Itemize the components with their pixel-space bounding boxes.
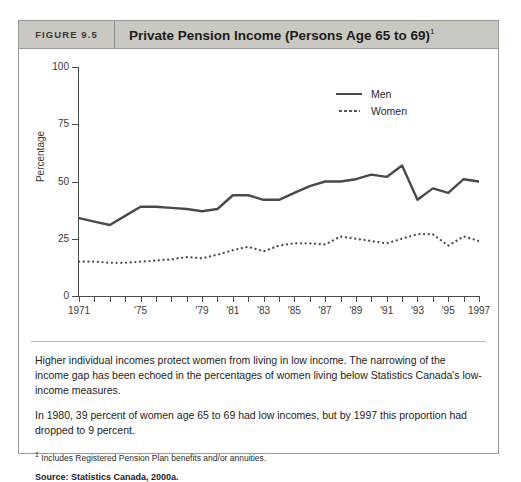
x-axis-tick: [156, 297, 157, 302]
x-axis-tick: [387, 297, 388, 302]
x-axis-tick: [217, 297, 218, 302]
footnote: 1 Includes Registered Pension Plan benef…: [35, 448, 482, 465]
x-axis-tick: [233, 297, 234, 302]
x-axis-tick: [79, 297, 80, 302]
x-axis-tick: [341, 297, 342, 302]
x-axis-tick: [325, 297, 326, 302]
x-axis-tick-label: '85: [288, 305, 301, 316]
x-axis-tick-label: '83: [257, 305, 270, 316]
x-axis-tick-label: '89: [349, 305, 362, 316]
x-axis-tick: [279, 297, 280, 302]
x-axis-tick: [94, 297, 95, 302]
x-axis-tick-label: '87: [319, 305, 332, 316]
x-axis-tick: [417, 297, 418, 302]
source-line: Source: Statistics Canada, 2000a.: [35, 472, 482, 482]
legend-line-solid-icon: [336, 89, 362, 99]
y-axis-tick-label: 50: [35, 176, 69, 187]
figure-container: FIGURE 9.5 Private Pension Income (Perso…: [18, 20, 499, 454]
footer-paragraph-2: In 1980, 39 percent of women age 65 to 6…: [35, 408, 482, 438]
x-axis-tick-label: '81: [226, 305, 239, 316]
x-axis-tick-label: 1971: [68, 305, 90, 316]
figure-title-text: Private Pension Income (Persons Age 65 t…: [129, 27, 430, 42]
plot-area: [79, 67, 479, 296]
y-axis-tick: [72, 239, 78, 240]
legend-label-men: Men: [371, 88, 391, 100]
x-axis-tick: [125, 297, 126, 302]
x-axis-tick: [264, 297, 265, 302]
x-axis-tick: [294, 297, 295, 302]
footer-paragraph-1: Higher individual incomes protect women …: [35, 353, 482, 398]
y-axis-tick-label: 0: [35, 290, 69, 301]
y-axis-tick-label: 100: [35, 61, 69, 72]
figure-title-superscript: 1: [430, 27, 434, 36]
legend-line-dotted-icon: [336, 106, 362, 116]
series-line-men: [79, 165, 479, 225]
x-axis-tick-label: '95: [442, 305, 455, 316]
y-axis-labels: 0255075100: [31, 67, 69, 297]
chart-region: Percentage 0255075100 Men Women 1971'75'…: [31, 59, 486, 342]
x-axis-tick: [479, 297, 480, 302]
x-axis-tick-label: '91: [380, 305, 393, 316]
figure-title: Private Pension Income (Persons Age 65 t…: [115, 27, 435, 43]
y-axis-tick: [72, 67, 78, 68]
x-axis-tick-label: '79: [196, 305, 209, 316]
x-axis-tick-label: '93: [411, 305, 424, 316]
x-axis-tick: [371, 297, 372, 302]
y-axis-tick-label: 75: [35, 118, 69, 129]
footnote-text: Includes Registered Pension Plan benefit…: [39, 453, 266, 463]
figure-footer: Higher individual incomes protect women …: [19, 342, 498, 482]
x-axis-tick: [248, 297, 249, 302]
x-axis-tick: [187, 297, 188, 302]
y-axis-tick: [72, 182, 78, 183]
legend-item-women: Women: [336, 102, 407, 119]
x-axis-tick: [448, 297, 449, 302]
x-axis-tick: [464, 297, 465, 302]
x-axis-tick: [402, 297, 403, 302]
x-axis-tick: [310, 297, 311, 302]
series-line-women: [79, 234, 479, 263]
y-axis-tick-label: 25: [35, 233, 69, 244]
figure-number-label: FIGURE 9.5: [19, 21, 115, 48]
x-axis-tick: [433, 297, 434, 302]
figure-header: FIGURE 9.5 Private Pension Income (Perso…: [19, 21, 498, 49]
y-axis-tick: [72, 124, 78, 125]
x-axis-tick-label: 1997: [468, 305, 490, 316]
x-axis-tick: [141, 297, 142, 302]
x-axis-tick: [110, 297, 111, 302]
chart-series-svg: [79, 67, 479, 296]
x-axis-tick-label: '75: [134, 305, 147, 316]
x-axis-tick: [202, 297, 203, 302]
legend-item-men: Men: [336, 85, 407, 102]
x-axis-tick: [171, 297, 172, 302]
y-axis-tick: [72, 296, 78, 297]
legend-label-women: Women: [371, 105, 407, 117]
x-axis-tick: [356, 297, 357, 302]
chart-legend: Men Women: [336, 85, 407, 119]
